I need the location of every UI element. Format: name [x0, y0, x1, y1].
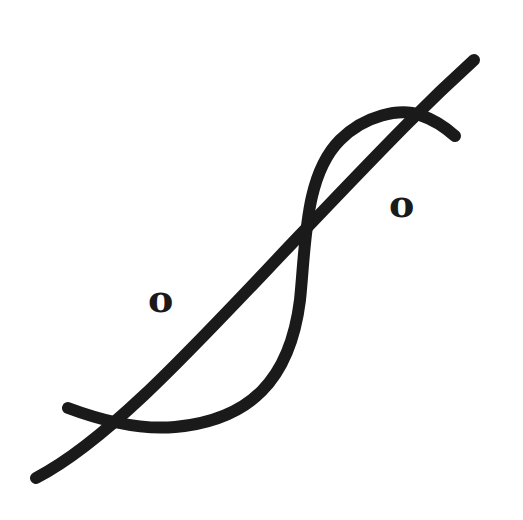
symbol-canvas: o o [0, 0, 523, 520]
right-circle-glyph: o [389, 185, 414, 223]
symbol-drawing [0, 0, 523, 520]
left-circle-glyph: o [148, 280, 173, 318]
